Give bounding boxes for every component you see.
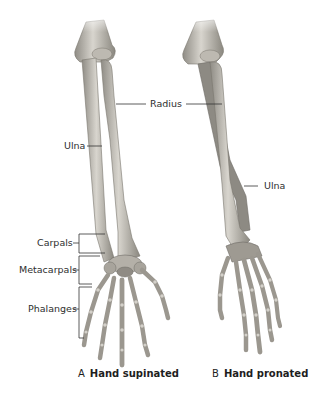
label-carpals: Carpals <box>37 237 73 248</box>
forearm-bones-illustration <box>0 0 328 406</box>
caption-a-letter: A <box>78 368 85 379</box>
label-radius: Radius <box>150 98 182 109</box>
caption-a-title: Hand supinated <box>90 368 179 379</box>
label-ulna-b: Ulna <box>264 180 285 191</box>
label-phalanges: Phalanges <box>28 303 77 314</box>
caption-panel-a: AHand supinated <box>78 368 179 380</box>
label-metacarpals: Metacarpals <box>19 264 77 275</box>
label-ulna-a: Ulna <box>64 140 85 151</box>
panel-a-bones <box>75 20 168 365</box>
caption-b-letter: B <box>212 368 219 379</box>
caption-panel-b: BHand pronated <box>212 368 308 380</box>
caption-b-title: Hand pronated <box>224 368 308 379</box>
